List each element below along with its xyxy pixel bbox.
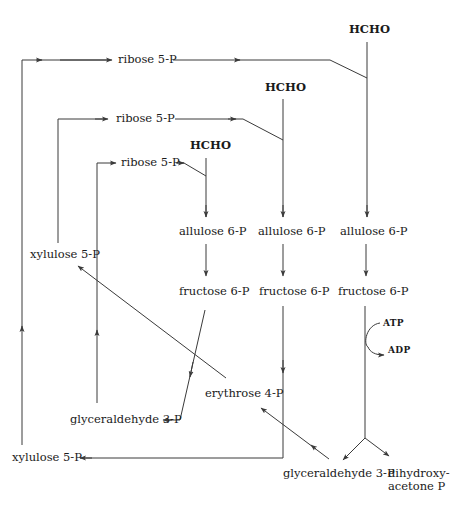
hcho-label-3: HCHO — [349, 23, 390, 36]
hcho-label-1: HCHO — [190, 139, 231, 152]
allulose-6p-3: allulose 6-P — [340, 225, 408, 238]
edge-erythrose-to-xylulose-upper — [78, 266, 226, 378]
edge-fructose-2-to-xylulose-lower — [80, 306, 283, 458]
edge-glyceraldehyde-right-to-erythrose — [261, 408, 329, 459]
edge-fructose-1-to-glyceraldehyde-left — [163, 310, 205, 420]
xylulose-5p-upper: xylulose 5-P — [30, 248, 100, 261]
ribose-5p-low: ribose 5-P — [121, 156, 180, 169]
adp-label: ADP — [388, 344, 410, 357]
atp-label: ATP — [383, 317, 404, 330]
atp-adp-cofactor-arc — [366, 323, 384, 355]
edge-xylulose-upper-to-ribose-mid — [58, 119, 108, 243]
glyceraldehyde-3p-right: glyceraldehyde 3-P — [283, 467, 395, 480]
hcho-label-2: HCHO — [265, 81, 306, 94]
fructose-6p-3: fructose 6-P — [338, 285, 408, 298]
allulose-6p-1: allulose 6-P — [179, 225, 247, 238]
fructose-6p-1: fructose 6-P — [179, 285, 249, 298]
dihydroxyacetone-p: dihydroxy- acetone P — [388, 467, 450, 493]
ribose-5p-top: ribose 5-P — [118, 53, 177, 66]
edge-ribose-mid-to-allulose-2 — [175, 99, 283, 217]
xylulose-5p-lower: xylulose 5-P — [12, 451, 82, 464]
allulose-6p-2: allulose 6-P — [258, 225, 326, 238]
edge-ribose-low-to-allulose-1 — [176, 158, 206, 217]
edge-ribose-top-to-allulose-3 — [173, 42, 367, 217]
erythrose-4p: erythrose 4-P — [205, 387, 284, 400]
ribose-5p-mid: ribose 5-P — [116, 112, 175, 125]
fructose-6p-2: fructose 6-P — [259, 285, 329, 298]
glyceraldehyde-3p-left: glyceraldehyde 3-P — [70, 413, 182, 426]
edge-allulose-to-fructose — [206, 244, 366, 276]
